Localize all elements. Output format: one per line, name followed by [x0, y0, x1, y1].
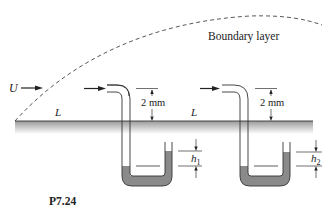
freestream-velocity-label: U — [9, 82, 18, 94]
plate-length-label-2: L — [191, 107, 197, 118]
plate-shading — [15, 121, 313, 134]
boundary-layer-label: Boundary layer — [208, 31, 279, 43]
probe-2-height-label: h2 — [311, 153, 321, 167]
figure-id-label: P7.24 — [49, 196, 76, 208]
probe-1-gap-label: 2 mm — [141, 98, 165, 109]
freestream-arrow — [21, 86, 43, 91]
probe-1-height-label: h1 — [191, 153, 201, 167]
diagram-canvas — [0, 0, 336, 209]
plate-length-label-1: L — [55, 107, 61, 118]
probe-2-gap-label: 2 mm — [260, 98, 284, 109]
probe-1-height-subscript: 1 — [197, 158, 201, 167]
probe-2-height-subscript: 2 — [317, 158, 321, 167]
